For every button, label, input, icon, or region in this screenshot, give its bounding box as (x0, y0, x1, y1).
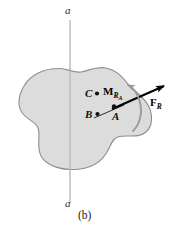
point-marker-A (112, 104, 116, 108)
point-label-C: C (85, 88, 92, 99)
axis-label-bottom: a (65, 198, 71, 209)
force-symbol: F (150, 96, 157, 108)
force-subscript-R: R (157, 102, 162, 111)
point-marker-B (95, 112, 99, 116)
resultant-force-label: FR (150, 97, 162, 108)
figure-panel-b: a a C B A MRA FR (b) (0, 0, 180, 231)
axis-label-top: a (65, 5, 71, 16)
point-label-A: A (112, 111, 119, 122)
couple-moment-label: MRA (103, 86, 122, 97)
moment-symbol: M (103, 85, 113, 97)
figure-caption: (b) (78, 210, 91, 222)
point-label-B: B (85, 109, 92, 120)
point-marker-C (95, 91, 99, 95)
moment-subscript-A: A (118, 95, 122, 101)
